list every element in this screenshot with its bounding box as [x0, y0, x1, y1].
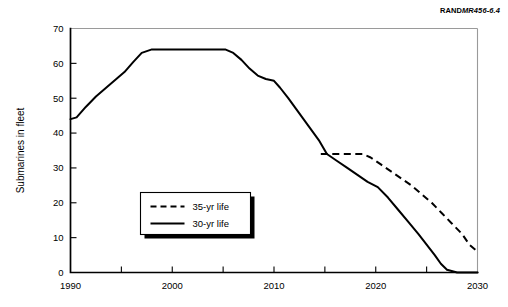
y-axis-title: Submarines in fleet: [15, 107, 26, 193]
y-tick-label-60: 60: [53, 58, 64, 69]
y-tick-label-0: 0: [58, 267, 63, 278]
rand-logo-text: RAND: [440, 6, 462, 15]
y-tick-label-50: 50: [53, 93, 64, 104]
rand-document-id: RANDMR456-6.4: [440, 7, 500, 15]
series-line-35-yr-life: [321, 154, 478, 252]
rand-report-number: MR456-6.4: [462, 6, 500, 15]
legend-label-35-yr-life: 35-yr life: [193, 201, 229, 212]
y-axis-tick-labels: 010203040506070: [53, 23, 64, 278]
x-tick-label-2030: 2030: [467, 280, 488, 291]
y-tick-label-40: 40: [53, 127, 64, 138]
chart-legend[interactable]: 35-yr life30-yr life: [141, 193, 255, 239]
x-tick-label-1990: 1990: [60, 280, 81, 291]
x-axis-tick-labels: 19902000201020202030: [60, 280, 488, 291]
x-tick-label-2020: 2020: [365, 280, 386, 291]
y-tick-label-20: 20: [53, 197, 64, 208]
legend-label-30-yr-life: 30-yr life: [193, 218, 229, 229]
series-line-30-yr-life: [71, 49, 478, 272]
y-tick-label-30: 30: [53, 162, 64, 173]
y-axis-title-text: Submarines in fleet: [15, 107, 26, 193]
line-chart: 010203040506070 19902000201020202030 Sub…: [0, 0, 508, 307]
chart-figure: RANDMR456-6.4 010203040506070 1990200020…: [0, 0, 508, 307]
x-tick-label-2010: 2010: [263, 280, 284, 291]
y-tick-label-70: 70: [53, 23, 64, 34]
x-axis-ticks: [121, 267, 426, 273]
data-series-group: [71, 49, 478, 272]
y-tick-label-10: 10: [53, 232, 64, 243]
x-tick-label-2000: 2000: [162, 280, 183, 291]
y-axis-ticks: [71, 63, 77, 237]
